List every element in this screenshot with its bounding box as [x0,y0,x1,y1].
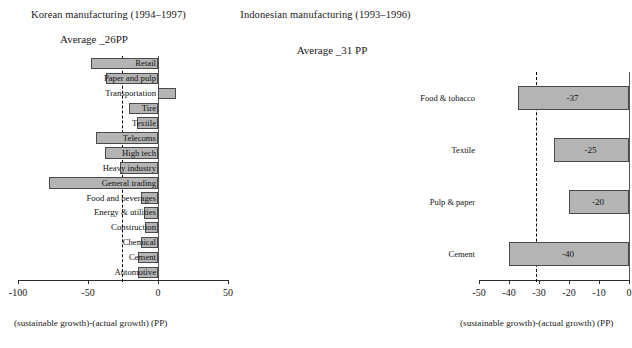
panel-korean: Korean manufacturing (1994–1997) Average… [0,0,217,348]
bar-category-label: Telecoms [0,133,156,143]
x-axis-tick [509,280,510,284]
x-axis-tick [569,280,570,284]
bar-category-label: Tire [0,103,156,113]
x-axis-tick-label: -40 [502,287,515,298]
bar-category-label: Food & tobacco [305,93,475,103]
bar-category-label: Textile [305,145,475,155]
bar-value-label: -25 [585,145,597,155]
x-axis-tick-label: -50 [472,287,485,298]
bar [158,88,176,100]
left-chart-title: Korean manufacturing (1994–1997) [0,9,217,20]
bar-category-label: Transportation [0,88,156,98]
right-axis-caption: (sustainable growth)-(actual growth) (PP… [460,318,613,328]
bar-category-label: Pulp & paper [305,197,475,207]
x-axis-tick-label: -30 [532,287,545,298]
x-axis-line [479,280,629,281]
x-axis-tick-label: -20 [562,287,575,298]
bar-category-label: Cement [0,252,156,262]
bar-value-label: -37 [567,93,579,103]
x-axis-tick [629,280,630,284]
x-axis-tick-label: -50 [81,287,94,298]
x-axis-tick [158,280,159,284]
x-axis-tick [539,280,540,284]
bar-category-label: Automotive [0,267,156,277]
x-axis-tick [479,280,480,284]
x-axis-tick-label: 0 [156,287,161,298]
left-plot-area: -100-50050RetailPaper and pulpTransporta… [18,56,228,280]
panel-indonesian: Indonesian manufacturing (1993–1996) Ave… [217,0,434,348]
x-axis-tick-label: -10 [592,287,605,298]
x-axis-tick [88,280,89,284]
x-axis-tick-label: -100 [9,287,27,298]
zero-axis-line [629,72,630,280]
left-average-label: Average _26PP [0,33,188,45]
right-plot-area: -50-40-30-20-100Food & tobacco-37Textile… [479,72,629,280]
bar-category-label: General trading [0,178,156,188]
bar-category-label: Heavy industry [0,163,156,173]
bar-category-label: Construction [0,222,156,232]
bar-category-label: Cement [305,249,475,259]
bar-category-label: Retail [0,58,156,68]
bar-category-label: Textile [0,118,156,128]
x-axis-tick [18,280,19,284]
x-axis-tick-label: 0 [627,287,632,298]
bar-category-label: Food and beverages [0,193,156,203]
right-chart-title: Indonesian manufacturing (1993–1996) [217,9,434,20]
bar-value-label: -20 [592,197,604,207]
bar-value-label: -40 [562,249,574,259]
bar-category-label: Energy & utilities [0,207,156,217]
x-axis-line [18,280,228,281]
bar-category-label: Chemical [0,237,156,247]
bar-category-label: Paper and pulp [0,73,156,83]
bar-category-label: High tech [0,148,156,158]
x-axis-tick [599,280,600,284]
left-axis-caption: (sustainable growth)-(actual growth) (PP… [14,318,167,328]
right-average-label: Average _31 PP [237,44,427,56]
